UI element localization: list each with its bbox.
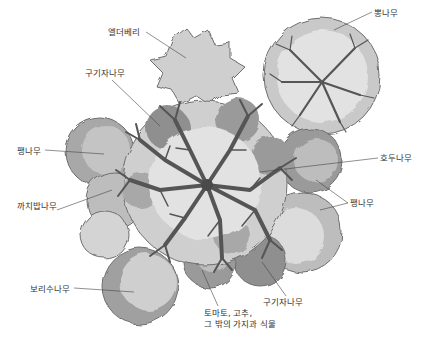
label-walnut: 호두나무 bbox=[380, 153, 412, 164]
label-sea-buckthorn: 까치밥나무 bbox=[17, 201, 57, 212]
elderberry-canopy bbox=[150, 28, 244, 104]
label-elderberry: 엘더베리 bbox=[108, 27, 140, 38]
label-pea-left: 팽나무 bbox=[17, 146, 41, 157]
label-pea-right: 팽나무 bbox=[350, 198, 374, 209]
label-silverberry: 보리수나무 bbox=[30, 284, 70, 295]
label-mulberry: 뽕나무 bbox=[374, 8, 398, 19]
mulberry-canopy bbox=[264, 18, 380, 134]
silverberry-shrub bbox=[102, 248, 178, 324]
label-goji-top: 구기자나무 bbox=[85, 68, 125, 79]
label-nightshades: 토마토, 고추, 그 밖의 가지과 식물 bbox=[204, 308, 276, 330]
label-goji-bottom: 구기자나무 bbox=[263, 297, 303, 308]
